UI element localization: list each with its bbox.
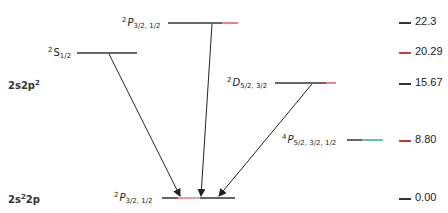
energy-tick-15.67 [399, 83, 411, 85]
term-j-values: 5/2, 3/2, 1/2 [294, 139, 337, 147]
term-multiplicity: 2 [114, 191, 118, 199]
config-label-2s2p2: 2s2p2 [8, 79, 40, 91]
term-multiplicity: 2 [227, 76, 231, 84]
energy-tick-8.80 [399, 140, 411, 142]
energy-value-20.29: 20.29 [415, 45, 443, 57]
term-multiplicity: 2 [122, 16, 126, 24]
transition-arrow-2S [109, 54, 180, 196]
energy-value-8.80: 8.80 [415, 133, 436, 145]
transition-arrow-2P [201, 24, 212, 196]
term-label-4P: 4P5/2, 3/2, 1/2 [282, 133, 336, 147]
config-text-b: 2p [26, 194, 40, 205]
energy-tick-0.00 [399, 198, 411, 200]
term-label-2P-ground: 2P3/2, 1/2 [114, 191, 152, 205]
config-label-2s22p: 2s22p [8, 193, 40, 205]
config-text: 2s2p [8, 80, 35, 91]
energy-tick-20.29 [399, 52, 411, 54]
term-j-values: 3/2, 1/2 [134, 22, 161, 30]
energy-value-0.00: 0.00 [415, 191, 436, 203]
energy-value-15.67: 15.67 [415, 76, 443, 88]
term-j-values: 1/2 [60, 52, 71, 60]
term-j-values: 5/2, 3/2 [240, 82, 267, 90]
term-multiplicity: 2 [48, 46, 52, 54]
energy-value-22.3: 22.3 [415, 15, 436, 27]
term-j-values: 3/2, 1/2 [126, 197, 153, 205]
level-diagram-canvas [0, 0, 448, 213]
term-label-2S: 2S1/2 [48, 46, 71, 60]
term-label-2P-upper: 2P3/2, 1/2 [122, 16, 160, 30]
term-label-2D: 2D5/2, 3/2 [227, 76, 267, 90]
energy-tick-22.3 [399, 22, 411, 24]
config-superscript: 2 [35, 79, 40, 87]
term-multiplicity: 4 [282, 133, 286, 141]
config-text-a: 2s [8, 194, 21, 205]
